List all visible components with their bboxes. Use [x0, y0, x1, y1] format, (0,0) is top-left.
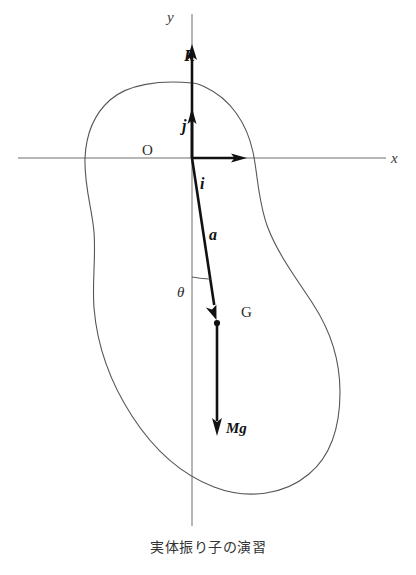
origin-label: O	[142, 143, 153, 158]
y-axis-label: y	[167, 10, 174, 25]
position-vector-a-label: a	[209, 227, 217, 243]
reaction-vector-label: R	[184, 48, 195, 64]
x-axis-label: x	[391, 151, 398, 166]
figure-caption: 実体振り子の演習	[0, 536, 416, 556]
angle-theta-label: θ	[177, 285, 184, 300]
unit-vector-i-label: i	[200, 176, 204, 192]
unit-vector-j-label: j	[182, 118, 186, 134]
angle-theta-arc	[192, 277, 211, 279]
physical-pendulum-figure: y x O R j i a θ G Mg 実体振り子の演習	[0, 0, 416, 575]
center-of-mass-label: G	[241, 305, 252, 320]
diagram-canvas	[0, 0, 416, 575]
weight-vector-label: Mg	[226, 421, 247, 436]
position-vector-a-arrowhead	[206, 305, 217, 320]
